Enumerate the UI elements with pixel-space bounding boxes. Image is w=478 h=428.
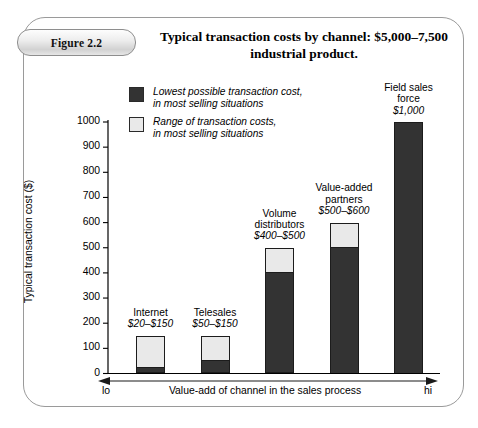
bar-caption-value: $50–$150 xyxy=(160,318,270,329)
legend-item-label: Range of transaction costs, in most sell… xyxy=(153,116,276,139)
legend-item-cost-range: Range of transaction costs, in most sell… xyxy=(129,116,303,139)
chart-title-line-1: Typical transaction costs by channel: $5… xyxy=(148,29,460,46)
bar-segment-lowest-cost xyxy=(265,273,294,374)
y-axis-title: Typical transaction cost ($) xyxy=(23,152,34,332)
legend-item-lowest-cost: Lowest possible transaction cost, in mos… xyxy=(129,86,303,109)
bar-segment-range xyxy=(330,223,359,248)
y-axis-tick-label: 600 xyxy=(66,216,100,227)
dark-swatch-icon xyxy=(129,87,144,102)
y-axis-tick-label: 900 xyxy=(66,140,100,151)
light-swatch-icon xyxy=(129,117,144,132)
bar-caption-name: Value-added xyxy=(289,182,399,193)
bar-caption-name: force xyxy=(354,93,464,104)
bar-caption: Value-addedpartners$500–$600 xyxy=(289,182,399,216)
bar-segment-range xyxy=(201,336,230,361)
bar-caption: Field salesforce$1,000 xyxy=(354,82,464,116)
y-axis-tick-label: 500 xyxy=(66,241,100,252)
figure-number-label: Figure 2.2 xyxy=(51,37,103,49)
bar-segment-range xyxy=(136,336,165,369)
bar-caption-value: $500–$600 xyxy=(289,205,399,216)
bar-caption: Telesales$50–$150 xyxy=(160,307,270,330)
x-axis-title: Value-add of channel in the sales proces… xyxy=(120,385,410,396)
chart-title-line-2: industrial product. xyxy=(148,46,460,63)
bar-caption-name: partners xyxy=(289,194,399,205)
y-axis-tick-label: 700 xyxy=(66,190,100,201)
y-axis-tick-label: 100 xyxy=(66,341,100,352)
y-axis-tick-label: 800 xyxy=(66,165,100,176)
bar-segment-lowest-cost xyxy=(330,248,359,374)
bar-segment-lowest-cost xyxy=(394,122,423,374)
bar-segment-range xyxy=(265,248,294,273)
x-axis-low-label: lo xyxy=(102,385,110,396)
bar-caption-name: distributors xyxy=(225,219,335,230)
legend-item-label: Lowest possible transaction cost, in mos… xyxy=(153,86,303,109)
figure-number-badge: Figure 2.2 xyxy=(17,29,136,56)
bar-caption-name: Telesales xyxy=(160,307,270,318)
bar-caption-name: Field sales xyxy=(354,82,464,93)
y-axis-tick-label: 1000 xyxy=(66,115,100,126)
y-axis-tick-label: 0 xyxy=(66,367,100,378)
bar-segment-lowest-cost xyxy=(201,361,230,374)
bar-caption-value: $400–$500 xyxy=(225,230,335,241)
bar-caption-value: $1,000 xyxy=(354,105,464,116)
x-axis-high-label: hi xyxy=(424,385,432,396)
y-axis-tick-label: 300 xyxy=(66,291,100,302)
chart-legend: Lowest possible transaction cost, in mos… xyxy=(129,86,303,146)
y-axis-tick-label: 400 xyxy=(66,266,100,277)
bar-segment-lowest-cost xyxy=(136,368,165,373)
chart-title: Typical transaction costs by channel: $5… xyxy=(148,29,460,62)
